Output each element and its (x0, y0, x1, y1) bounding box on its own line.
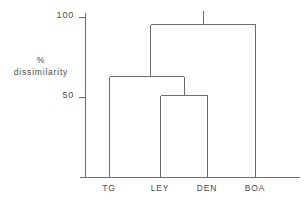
dendrogram-figure: 100 50 % dissimilarity TG LEY DEN BOA (0, 0, 305, 205)
leaf-label-den: DEN (184, 183, 230, 193)
y-axis-title: % dissimilarity (6, 54, 76, 78)
y-tick-label-50: 50 (44, 90, 74, 100)
leaf-label-tg: TG (86, 183, 132, 193)
y-axis-title-line1: % (6, 54, 76, 66)
y-tick-label-100: 100 (44, 10, 74, 20)
leaf-label-ley: LEY (137, 183, 183, 193)
y-axis-title-line2: dissimilarity (6, 66, 76, 78)
dendrogram-plot (0, 0, 305, 205)
leaf-label-boa: BOA (232, 183, 278, 193)
